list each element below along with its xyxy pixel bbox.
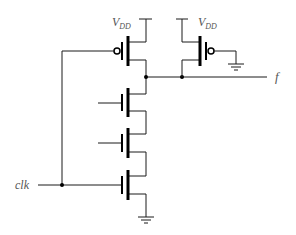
clock-wire [38, 51, 121, 187]
clock-label: clk [15, 178, 30, 192]
vdd-left-label: VDD [112, 15, 131, 31]
nmos-evaluate-transistor [122, 170, 146, 217]
circuit-diagram: VDD f VDD [0, 0, 296, 235]
vdd-right-label: VDD [198, 15, 217, 31]
pmos-precharge-transistor [62, 36, 146, 94]
inversion-bubble-icon [208, 48, 214, 54]
nmos-input-1-transistor [98, 88, 146, 134]
output-label: f [275, 69, 281, 84]
nmos-input-2-transistor [98, 128, 146, 176]
ground-icon [228, 64, 244, 70]
output-node [144, 75, 267, 79]
vdd-left-terminal [139, 19, 152, 42]
inversion-bubble-icon [114, 48, 120, 54]
ground-icon [138, 217, 154, 223]
